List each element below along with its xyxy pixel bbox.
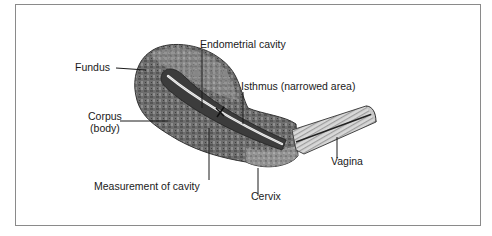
label-cervix: Cervix xyxy=(251,190,281,202)
label-endometrial-cavity: Endometrial cavity xyxy=(200,38,286,50)
label-isthmus: Isthmus (narrowed area) xyxy=(241,80,355,92)
label-measurement-of-cavity: Measurement of cavity xyxy=(94,180,200,192)
label-corpus: Corpus (body) xyxy=(88,110,122,134)
vagina-tube xyxy=(292,106,376,154)
label-vagina: Vagina xyxy=(331,155,363,167)
label-corpus-line2: (body) xyxy=(88,122,122,134)
uterus-illustration xyxy=(0,0,492,236)
label-fundus: Fundus xyxy=(75,61,110,73)
label-corpus-line1: Corpus xyxy=(88,110,122,122)
